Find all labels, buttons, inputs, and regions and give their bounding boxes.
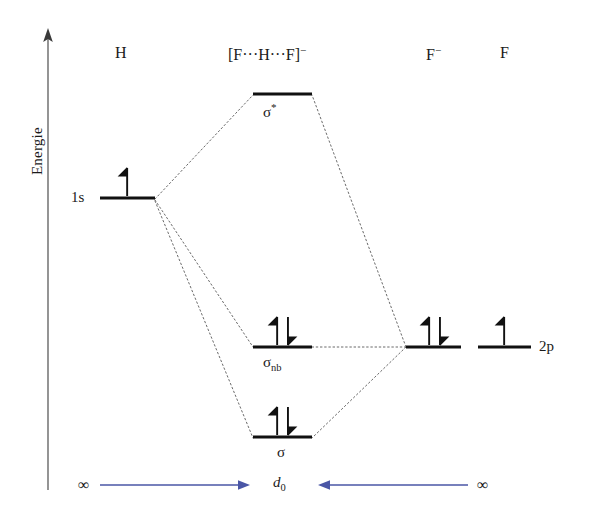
electron-arrow-up-sigma-nb <box>268 316 279 345</box>
distance-label-left-infinity: ∞ <box>78 477 89 493</box>
correlation-f-to-sigma-star <box>312 95 406 347</box>
orbital-caption-sigma-star-base: σ <box>263 104 271 120</box>
correlation-f-to-sigma <box>312 347 406 438</box>
orbital-caption-sigma: σ <box>277 445 285 460</box>
species-header-hydrogen: H <box>115 45 127 61</box>
distance-label-right-infinity: ∞ <box>477 477 488 493</box>
species-header-fluoride-anion-charge: − <box>435 44 441 56</box>
orbital-caption-sigma-nb-subscript: nb <box>271 362 282 373</box>
electron-arrow-up-f-anion-2p <box>420 316 431 345</box>
energy-axis-caption: Energie <box>30 127 45 175</box>
infinity-symbol-left: ∞ <box>78 476 89 493</box>
distance-label-equilibrium-base: d <box>273 474 281 490</box>
correlation-lines <box>155 95 406 438</box>
species-header-fluoride-anion-symbol: F <box>426 46 435 63</box>
orbital-caption-sigma-nb-base: σ <box>263 354 271 370</box>
species-header-fluoride-anion: F− <box>426 45 441 63</box>
species-header-bifluoride-formula: [F···H···F] <box>228 46 300 63</box>
distance-label-equilibrium-subscript: 0 <box>281 482 286 493</box>
atomic-orbital-label-1s: 1s <box>71 190 84 205</box>
electron-arrow-up-h-1s <box>118 167 128 196</box>
distance-arrow-right <box>318 480 468 490</box>
electron-arrows <box>118 167 506 436</box>
distance-label-equilibrium: d0 <box>273 475 286 494</box>
electron-arrow-down-sigma <box>287 407 297 436</box>
correlation-1s-to-sigma-nb <box>155 200 253 347</box>
energy-level-bars <box>100 94 531 437</box>
electron-arrow-down-f-anion-2p <box>439 317 449 346</box>
orbital-caption-sigma-star-superscript: * <box>271 101 277 113</box>
species-header-bifluoride-charge: − <box>300 44 306 56</box>
infinity-symbol-right: ∞ <box>477 476 488 493</box>
electron-arrow-up-f-atom-2p <box>495 316 506 345</box>
diagram-vector-layer <box>0 0 591 511</box>
orbital-caption-sigma-base: σ <box>277 444 285 460</box>
orbital-caption-sigma-star: σ* <box>263 102 277 120</box>
mo-diagram-canvas: Energie H [F···H···F]− F− F 1s 2p σ* σnb… <box>0 0 591 511</box>
orbital-caption-sigma-nb: σnb <box>263 355 282 374</box>
electron-arrow-down-sigma-nb <box>287 317 297 346</box>
atomic-orbital-label-2p: 2p <box>539 339 554 354</box>
species-header-bifluoride: [F···H···F]− <box>228 45 306 63</box>
electron-arrow-up-sigma <box>268 406 279 435</box>
species-header-fluorine-atom: F <box>500 45 509 61</box>
distance-arrow-left <box>100 480 250 490</box>
correlation-1s-to-sigma <box>155 201 253 438</box>
correlation-1s-to-sigma-star <box>155 95 253 199</box>
energy-axis <box>43 28 53 490</box>
